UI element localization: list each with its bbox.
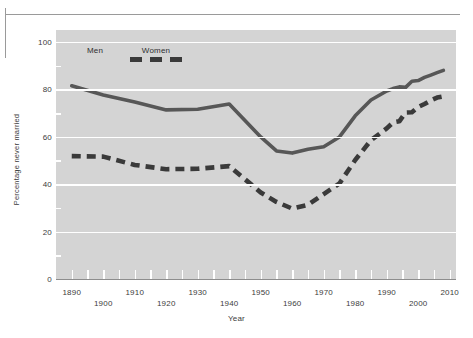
gridline-y-20 (56, 232, 456, 234)
y-axis-tick-labels: 020406080100 (22, 30, 52, 279)
plot-area: Men Women (56, 30, 456, 279)
x-tick-label-1960: 1960 (283, 299, 302, 308)
crop-mark-horizontal (5, 14, 460, 15)
x-tick-label-1950: 1950 (251, 288, 270, 297)
x-tick-label-1900: 1900 (94, 299, 113, 308)
y-minor-tick-10 (56, 255, 61, 257)
x-tick-1975 (339, 270, 340, 279)
x-tick-1940 (229, 270, 230, 279)
x-tick-1900 (103, 270, 104, 279)
x-tick-1970 (324, 270, 325, 279)
x-tick-1905 (119, 270, 120, 279)
legend-entry-women: Women (130, 46, 182, 62)
x-tick-label-1910: 1910 (125, 288, 144, 297)
x-tick-label-1940: 1940 (220, 299, 239, 308)
series-layer (56, 30, 456, 279)
x-tick-1980 (355, 270, 356, 279)
y-minor-tick-70 (56, 113, 61, 115)
x-tick-1930 (198, 270, 199, 279)
x-tick-1965 (308, 270, 309, 279)
x-tick-label-2010: 2010 (440, 288, 459, 297)
gridline-y-80 (56, 89, 456, 91)
x-tick-1950 (261, 270, 262, 279)
legend-label-women: Women (130, 46, 182, 55)
y-axis-title: Percentage never married (12, 100, 21, 220)
x-tick-label-1970: 1970 (314, 288, 333, 297)
x-tick-1935 (213, 270, 214, 279)
x-axis-line (56, 279, 456, 280)
x-tick-1985 (371, 270, 372, 279)
y-tick-label-80: 80 (26, 85, 52, 94)
y-tick-label-40: 40 (26, 180, 52, 189)
gridline-y-40 (56, 184, 456, 186)
chart-figure: 020406080100 Percentage never married Me… (0, 0, 473, 338)
x-tick-1915 (150, 270, 151, 279)
x-tick-1995 (402, 270, 403, 279)
legend-label-men: Men (72, 46, 118, 55)
x-tick-1920 (166, 270, 167, 279)
x-tick-1990 (387, 270, 388, 279)
x-tick-1960 (292, 270, 293, 279)
series-line-men (72, 70, 444, 153)
gridline-y-100 (56, 42, 456, 44)
x-tick-label-1990: 1990 (377, 288, 396, 297)
x-axis-title: Year (0, 314, 473, 323)
legend-entry-men: Men (72, 46, 118, 55)
y-minor-tick-50 (56, 160, 61, 162)
x-tick-1945 (245, 270, 246, 279)
x-tick-label-1980: 1980 (346, 299, 365, 308)
y-tick-label-0: 0 (26, 275, 52, 284)
x-tick-1925 (182, 270, 183, 279)
x-tick-label-1890: 1890 (62, 288, 81, 297)
gridline-y-60 (56, 137, 456, 139)
y-tick-label-100: 100 (26, 37, 52, 46)
y-tick-label-60: 60 (26, 132, 52, 141)
x-tick-1910 (135, 270, 136, 279)
x-tick-2000 (418, 270, 419, 279)
legend-swatch-women-dashed-line (130, 57, 182, 62)
y-minor-tick-30 (56, 208, 61, 210)
x-tick-2010 (450, 270, 451, 279)
x-tick-label-1920: 1920 (157, 299, 176, 308)
y-tick-label-20: 20 (26, 227, 52, 236)
x-tick-1895 (87, 270, 88, 279)
y-minor-tick-90 (56, 66, 61, 68)
x-tick-1890 (72, 270, 73, 279)
x-tick-1955 (276, 270, 277, 279)
x-tick-label-2000: 2000 (409, 299, 428, 308)
x-tick-label-1930: 1930 (188, 288, 207, 297)
x-tick-2005 (434, 270, 435, 279)
crop-mark-vertical (5, 8, 6, 58)
series-line-women (72, 96, 444, 208)
